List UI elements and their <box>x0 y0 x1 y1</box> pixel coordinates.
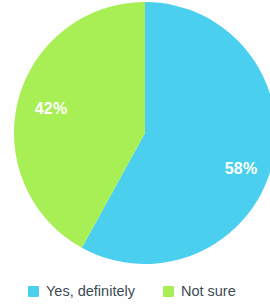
pie-chart-svg: 58% 42% <box>0 0 270 272</box>
legend-swatch-not-sure <box>163 286 174 297</box>
legend-item-not-sure[interactable]: Not sure <box>163 281 236 303</box>
slice-label-not-sure: 42% <box>35 100 68 117</box>
pie-slice-group <box>14 2 270 264</box>
legend-item-yes-definitely[interactable]: Yes, definitely <box>28 281 135 303</box>
legend-swatch-yes-definitely <box>28 286 39 297</box>
pie-chart-figure: 58% 42% Yes, definitely Not sure <box>0 0 270 305</box>
legend-label-not-sure: Not sure <box>181 284 236 299</box>
chart-legend: Yes, definitely Not sure <box>0 278 270 305</box>
chart-plot-area: 58% 42% <box>0 0 270 272</box>
legend-label-yes-definitely: Yes, definitely <box>46 284 135 299</box>
slice-label-yes-definitely: 58% <box>225 160 258 177</box>
